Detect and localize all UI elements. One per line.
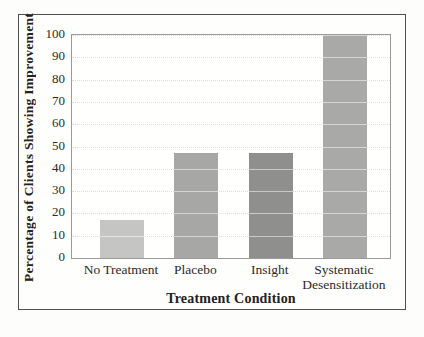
figure: Percentage of Clients Showing Improvemen… xyxy=(0,0,424,337)
y-tick-label-30: 30 xyxy=(19,182,65,198)
y-tick-label-80: 80 xyxy=(19,71,65,87)
y-tick-label-70: 70 xyxy=(19,93,65,109)
x-axis-title: Treatment Condition xyxy=(71,291,391,307)
y-tick-label-20: 20 xyxy=(19,204,65,220)
gridline-highlight-30 xyxy=(72,191,390,192)
y-tick-label-60: 60 xyxy=(19,115,65,131)
y-tick-label-90: 90 xyxy=(19,48,65,64)
gridline-highlight-50 xyxy=(72,147,390,148)
gridline-highlight-100 xyxy=(72,35,390,36)
plot-area xyxy=(71,34,391,259)
gridline-highlight-40 xyxy=(72,169,390,170)
bar-no-treatment xyxy=(100,220,144,258)
y-tick-label-40: 40 xyxy=(19,160,65,176)
gridline-highlight-20 xyxy=(72,213,390,214)
gridline-highlight-10 xyxy=(72,236,390,237)
gridline-highlight-60 xyxy=(72,124,390,125)
y-tick-label-100: 100 xyxy=(19,26,65,42)
y-tick-label-50: 50 xyxy=(19,138,65,154)
gridline-highlight-90 xyxy=(72,57,390,58)
y-tick-label-10: 10 xyxy=(19,227,65,243)
gridline-highlight-70 xyxy=(72,102,390,103)
gridline-highlight-80 xyxy=(72,80,390,81)
figure-frame: Percentage of Clients Showing Improvemen… xyxy=(18,14,406,310)
y-tick-label-0: 0 xyxy=(19,249,65,265)
x-tick-label-systematic-desensitization: Systematic Desensitization xyxy=(284,263,404,292)
